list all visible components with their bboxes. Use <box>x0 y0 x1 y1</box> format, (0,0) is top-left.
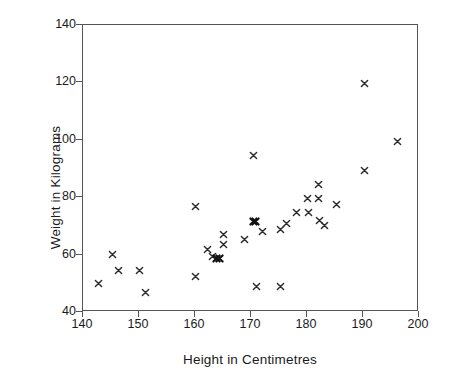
data-point-marker <box>191 202 200 211</box>
x-tick-label: 170 <box>228 318 272 331</box>
y-tick-label: 100 <box>36 133 76 145</box>
scatter-chart-figure: Weight in Kilograms Height in Centimetre… <box>0 0 450 384</box>
x-tick-label: 200 <box>396 318 440 331</box>
data-point-marker <box>251 217 260 226</box>
data-point-marker <box>360 79 369 88</box>
y-tick-label: 80 <box>36 190 76 202</box>
x-tick-label: 160 <box>172 318 216 331</box>
data-point-marker <box>314 194 323 203</box>
data-point-marker <box>320 221 329 230</box>
x-axis-title: Height in Centimetres <box>82 352 418 367</box>
y-tick-label: 40 <box>36 305 76 317</box>
data-point-marker <box>258 227 267 236</box>
data-point-marker <box>314 180 323 189</box>
data-point-marker <box>249 151 258 160</box>
data-point-marker <box>304 208 313 217</box>
data-point-marker <box>219 230 228 239</box>
y-tick-label: 60 <box>36 248 76 260</box>
data-point-marker <box>108 250 117 259</box>
data-point-marker <box>332 200 341 209</box>
data-point-marker <box>393 137 402 146</box>
data-point-marker <box>240 235 249 244</box>
data-point-marker <box>252 282 261 291</box>
x-tick-label: 190 <box>340 318 384 331</box>
data-point-marker <box>303 194 312 203</box>
x-tick-label: 180 <box>284 318 328 331</box>
data-point-marker <box>135 266 144 275</box>
y-tick-label: 120 <box>36 75 76 87</box>
data-point-marker <box>276 282 285 291</box>
data-point-marker <box>94 279 103 288</box>
data-point-marker <box>219 240 228 249</box>
data-point-marker <box>114 266 123 275</box>
data-points-layer <box>83 25 417 310</box>
x-tick-label: 140 <box>60 318 104 331</box>
data-point-marker <box>360 166 369 175</box>
data-point-marker <box>292 208 301 217</box>
data-point-marker <box>141 288 150 297</box>
data-point-marker <box>215 254 224 263</box>
x-tick-label: 150 <box>116 318 160 331</box>
y-tick-label: 140 <box>36 18 76 30</box>
plot-area <box>82 24 418 311</box>
data-point-marker <box>282 219 291 228</box>
data-point-marker <box>191 272 200 281</box>
